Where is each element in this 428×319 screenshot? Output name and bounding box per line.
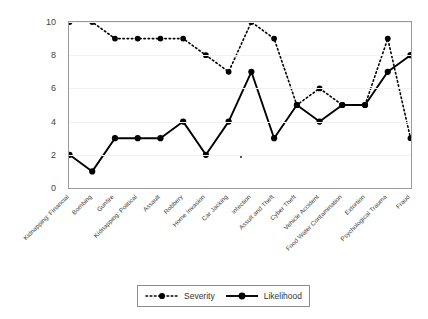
chart-container: 0246810 Kidnapping: FinancialBombingGunf… — [0, 0, 428, 319]
x-axis-tick-label: Psychological Trauma — [339, 193, 388, 242]
y-axis-tick-labels: 0246810 — [0, 21, 62, 189]
data-point — [339, 102, 345, 108]
x-axis-tick-label: Gunfire — [96, 193, 116, 213]
legend-marker-solid-line — [225, 291, 259, 301]
data-point — [180, 36, 186, 42]
legend-item-severity[interactable]: Severity — [145, 291, 215, 301]
gridline — [69, 55, 411, 56]
gridline — [69, 22, 411, 23]
data-point — [158, 36, 164, 42]
data-point — [271, 36, 277, 42]
x-axis-tick-labels: Kidnapping: FinancialBombingGunfireKidna… — [0, 190, 428, 285]
y-axis-tick-8: 8 — [51, 50, 56, 60]
data-point — [112, 36, 118, 42]
data-point — [385, 69, 391, 75]
x-axis-tick-label: Fraud — [394, 193, 411, 210]
y-axis-tick-4: 4 — [51, 117, 56, 127]
x-axis-tick-label: Robbery — [162, 193, 184, 215]
data-point — [135, 36, 141, 42]
data-point — [112, 135, 118, 141]
data-point — [408, 135, 411, 141]
gridline — [69, 122, 411, 123]
legend-label-severity: Severity — [184, 291, 215, 301]
data-point — [362, 102, 368, 108]
chart-legend: Severity Likelihood — [137, 285, 310, 307]
y-axis-tick-10: 10 — [46, 17, 56, 27]
data-point — [89, 168, 95, 174]
x-axis-tick-label: Bombing — [70, 193, 93, 216]
y-axis-tick-6: 6 — [51, 83, 56, 93]
legend-item-likelihood[interactable]: Likelihood — [225, 291, 302, 301]
y-axis-tick-2: 2 — [51, 150, 56, 160]
x-axis-tick-label: Kidnapping: Political — [92, 193, 138, 239]
data-point — [271, 135, 277, 141]
plot-area — [68, 21, 412, 189]
data-point — [294, 102, 300, 108]
x-axis-tick-label: Kidnapping: Financial — [22, 193, 70, 241]
data-point — [226, 69, 232, 75]
data-point — [135, 135, 141, 141]
x-axis-tick-label: Infection — [230, 193, 252, 215]
legend-marker-dotted-line — [145, 291, 179, 301]
data-point — [157, 135, 163, 141]
gridline — [69, 88, 411, 89]
x-axis-tick-label: Assault — [141, 193, 161, 213]
data-point — [248, 69, 254, 75]
legend-label-likelihood: Likelihood — [264, 291, 302, 301]
data-point — [385, 36, 391, 42]
stray-mark — [240, 156, 242, 158]
series-layer — [69, 22, 411, 188]
